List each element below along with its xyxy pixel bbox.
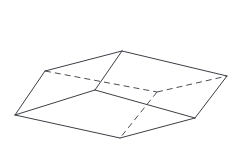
canvas-background xyxy=(0,0,242,157)
figure-canvas xyxy=(0,0,242,157)
wireframe-solid-svg xyxy=(0,0,242,157)
